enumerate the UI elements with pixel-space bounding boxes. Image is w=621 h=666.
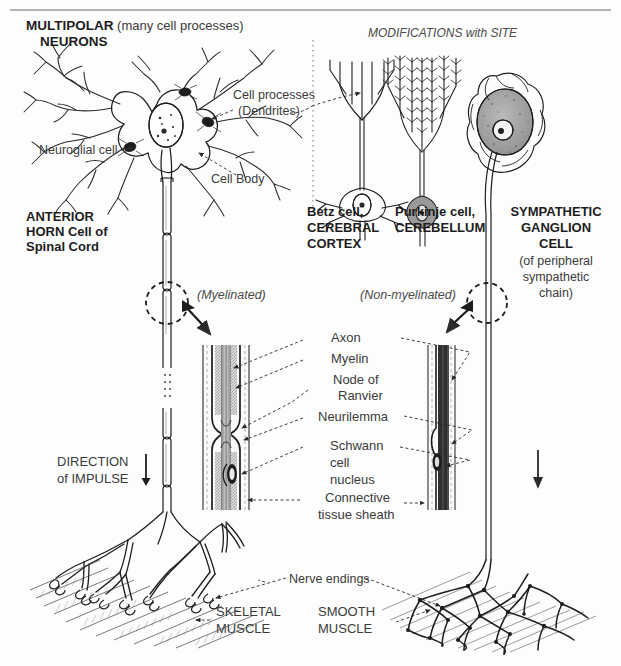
label-neurilemma: Neurilemma bbox=[318, 409, 388, 424]
label-connective-1: Connective bbox=[325, 490, 390, 505]
label-sympathetic-2: GANGLION bbox=[497, 220, 615, 235]
label-cell-processes: Cell processes bbox=[233, 88, 315, 103]
label-purkinje-cell-2: CEREBELLUM bbox=[395, 220, 485, 235]
label-betz-cell-2: CEREBRAL bbox=[307, 220, 379, 235]
label-anterior-horn-3: Spinal Cord bbox=[26, 239, 99, 254]
label-axon: Axon bbox=[331, 330, 361, 345]
label-schwann-1: Schwann bbox=[330, 438, 383, 453]
label-nerve-endings: Nerve endings bbox=[289, 572, 370, 587]
title-subtitle: (many cell processes) bbox=[114, 18, 244, 33]
label-sympathetic-1: SYMPATHETIC bbox=[497, 204, 615, 219]
neuron-diagram-figure: MULTIPOLAR (many cell processes) NEURONS… bbox=[0, 0, 621, 666]
title-multipolar: MULTIPOLAR bbox=[26, 18, 114, 33]
label-smooth-muscle-1: SMOOTH bbox=[318, 604, 375, 619]
label-smooth-muscle-2: MUSCLE bbox=[318, 621, 372, 636]
label-non-myelinated: (Non-myelinated) bbox=[360, 288, 456, 303]
label-schwann-2: cell bbox=[330, 455, 350, 470]
label-neuroglial-cell: Neuroglial cell bbox=[39, 143, 118, 158]
label-skeletal-muscle-2: MUSCLE bbox=[216, 621, 270, 636]
label-betz-cell-3: CORTEX bbox=[307, 236, 361, 251]
label-sympathetic-sub-3: chain) bbox=[497, 286, 615, 301]
label-anterior-horn-2: HORN Cell of bbox=[26, 224, 108, 239]
label-node-of-ranvier-1: Node of bbox=[333, 372, 379, 387]
label-cell-body: Cell Body bbox=[211, 172, 265, 187]
title-neurons: NEURONS bbox=[40, 34, 108, 50]
label-myelinated: (Myelinated) bbox=[197, 288, 266, 303]
label-skeletal-muscle-1: SKELETAL bbox=[216, 604, 281, 619]
label-direction-1: DIRECTION bbox=[57, 454, 129, 469]
label-purkinje-cell-1: Purkinje cell, bbox=[395, 204, 475, 219]
label-connective-2: tissue sheath bbox=[318, 507, 395, 522]
label-schwann-3: nucleus bbox=[330, 472, 375, 487]
down-arrow-icon bbox=[138, 452, 154, 488]
label-myelin: Myelin bbox=[331, 351, 369, 366]
label-node-of-ranvier-2: Ranvier bbox=[338, 388, 383, 403]
label-dendrites: (Dendrites) bbox=[238, 104, 300, 119]
page-title: MULTIPOLAR (many cell processes) bbox=[26, 18, 244, 34]
label-sympathetic-sub-1: (of peripheral bbox=[497, 254, 615, 269]
label-sympathetic-3: CELL bbox=[497, 236, 615, 251]
modifications-heading: MODIFICATIONS with SITE bbox=[368, 26, 517, 40]
label-betz-cell-1: Betz cell, bbox=[307, 204, 363, 219]
label-sympathetic-sub-2: sympathetic bbox=[497, 270, 615, 285]
label-direction-2: of IMPULSE bbox=[57, 471, 129, 486]
label-anterior-horn-1: ANTERIOR bbox=[26, 209, 94, 224]
